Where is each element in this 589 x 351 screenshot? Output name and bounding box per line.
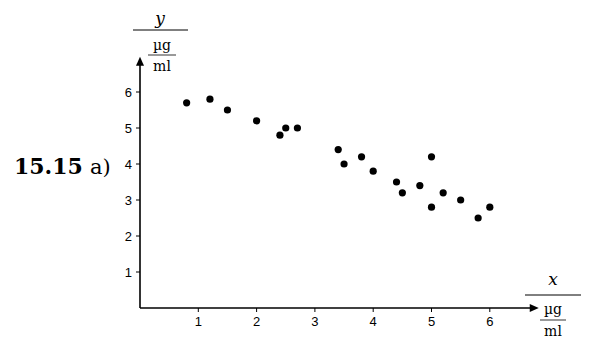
x-tick-label: 6 <box>486 314 493 329</box>
data-point <box>335 146 342 153</box>
data-point <box>253 117 260 124</box>
x-axis-label: x <box>548 269 558 289</box>
data-point <box>475 214 482 221</box>
figure-number: 15.15 <box>14 153 83 179</box>
x-tick-label: 1 <box>195 314 202 329</box>
data-point <box>224 106 231 113</box>
y-tick-label: 6 <box>125 85 132 100</box>
data-points <box>183 96 493 222</box>
ticks: 123456123456 <box>125 85 494 330</box>
x-axis-unit-denominator: ml <box>544 323 562 339</box>
data-point <box>486 204 493 211</box>
data-point <box>457 196 464 203</box>
y-axis-arrow-icon <box>136 57 144 66</box>
y-tick-label: 4 <box>125 157 132 172</box>
data-point <box>416 182 423 189</box>
x-tick-label: 3 <box>311 314 318 329</box>
data-point <box>294 124 301 131</box>
data-point <box>358 153 365 160</box>
x-tick-label: 5 <box>428 314 435 329</box>
x-tick-label: 4 <box>370 314 377 329</box>
y-tick-label: 3 <box>125 193 132 208</box>
y-axis-unit-denominator: ml <box>153 58 171 74</box>
scatter-chart: 15.15 a) y µg ml x µg ml 123456123456 <box>0 0 589 351</box>
data-point <box>428 153 435 160</box>
data-point <box>206 96 213 103</box>
y-tick-label: 5 <box>125 121 132 136</box>
y-axis-label: y <box>154 8 165 28</box>
data-point <box>370 168 377 175</box>
y-axis-unit-numerator: µg <box>153 37 171 53</box>
y-tick-label: 1 <box>125 265 132 280</box>
y-tick-label: 2 <box>125 229 132 244</box>
data-point <box>393 178 400 185</box>
data-point <box>428 204 435 211</box>
data-point <box>276 132 283 139</box>
axes <box>136 57 539 312</box>
x-axis-arrow-icon <box>530 304 539 312</box>
x-axis-unit-numerator: µg <box>544 301 562 317</box>
figure-part: a) <box>90 155 111 179</box>
data-point <box>440 189 447 196</box>
x-tick-label: 2 <box>253 314 260 329</box>
data-point <box>183 99 190 106</box>
data-point <box>340 160 347 167</box>
data-point <box>399 189 406 196</box>
data-point <box>282 124 289 131</box>
